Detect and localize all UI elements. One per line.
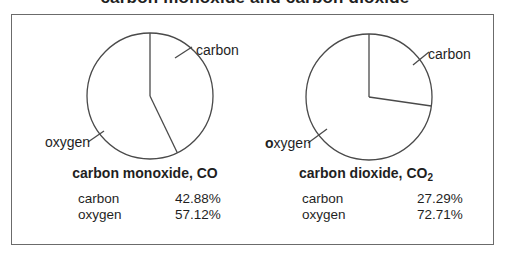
table-row: carbon 27.29%	[302, 191, 463, 207]
pie-chart-carbon-dioxide	[305, 33, 435, 163]
carbon-leader-tick	[175, 47, 192, 58]
co2-oxygen-callout-label: oxygen	[265, 136, 311, 150]
co2-oxygen-row-value: 72.71%	[417, 207, 463, 223]
co2-chart-title-text: carbon dioxide, CO	[299, 165, 427, 181]
co2-carbon-row-label: carbon	[302, 191, 417, 207]
page-title: carbon monoxide and carbon dioxide	[0, 0, 510, 8]
co-data-table: carbon 42.88% oxygen 57.12%	[78, 191, 221, 222]
co-carbon-row-label: carbon	[78, 191, 175, 207]
co-chart-title: carbon monoxide, CO	[35, 165, 255, 183]
pie-radius-slice	[150, 96, 177, 153]
table-row: oxygen 57.12%	[78, 207, 221, 223]
co2-data-table: carbon 27.29% oxygen 72.71%	[302, 191, 463, 222]
table-row: oxygen 72.71%	[302, 207, 463, 223]
co2-carbon-callout-label: carbon	[428, 47, 471, 61]
co2-chart-title-subscript: 2	[427, 172, 433, 183]
co2-carbon-row-value: 27.29%	[417, 191, 463, 207]
co-carbon-callout-label: carbon	[196, 43, 239, 57]
table-row: carbon 42.88%	[78, 191, 221, 207]
co-carbon-row-value: 42.88%	[175, 191, 221, 207]
co2-oxygen-row-label: oxygen	[302, 207, 417, 223]
co-oxygen-row-value: 57.12%	[175, 207, 221, 223]
co-oxygen-callout-label: oxygen	[45, 135, 90, 149]
co2-chart-title: carbon dioxide, CO2	[256, 165, 476, 183]
pie-radius-slice	[369, 97, 431, 106]
co-oxygen-row-label: oxygen	[78, 207, 175, 223]
co-chart-title-text: carbon monoxide, CO	[72, 165, 217, 181]
